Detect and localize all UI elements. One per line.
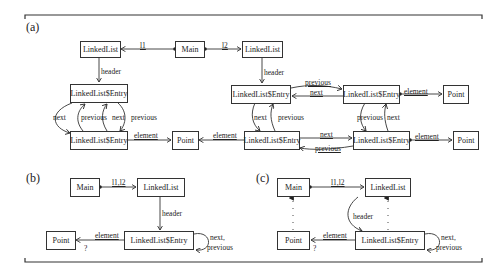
multiplicity-b: ? xyxy=(84,245,87,253)
panel-label-b: (b) xyxy=(26,172,40,184)
node-entry-b4: LinkedList$Entry xyxy=(353,131,410,150)
edge-label-l1l2-b: l1,l2 xyxy=(112,179,126,187)
node-entry-b2: LinkedList$Entry xyxy=(244,131,300,150)
edge-label-element-c: element xyxy=(323,232,347,240)
edge-label-l1l2-c: l1,l2 xyxy=(331,179,345,187)
node-point-b: Point xyxy=(46,231,76,250)
node-entry-a2: LinkedList$Entry xyxy=(70,131,128,150)
self-loop-label-c-2: previous xyxy=(436,244,462,252)
edge-label-previous-2: previous xyxy=(131,114,157,122)
node-linkedlist-l1: LinkedList xyxy=(80,41,121,58)
edge-label-next-3: next xyxy=(310,89,323,97)
node-linkedlist-b: LinkedList xyxy=(137,178,185,197)
self-loop-label-b-1: next, xyxy=(210,234,225,242)
node-point-b1: Point xyxy=(443,85,469,104)
node-point-c: Point xyxy=(277,231,310,250)
node-point-a: Point xyxy=(172,131,199,150)
self-loop-label-c-1: next, xyxy=(441,234,456,242)
multiplicity-c: ? xyxy=(313,245,316,253)
edge-label-previous-5: previous xyxy=(357,114,383,122)
panel-label-a: (a) xyxy=(26,21,39,33)
edge-label-header-1: header xyxy=(101,68,121,76)
node-main-b: Main xyxy=(70,178,100,197)
node-entry-a1: LinkedList$Entry xyxy=(70,84,128,103)
node-entry-c: LinkedList$Entry xyxy=(355,231,425,250)
edge-label-element-4: element xyxy=(415,133,439,141)
edge-label-next-2: next xyxy=(112,114,125,122)
edge-label-next-4: next xyxy=(254,114,267,122)
node-entry-b1: LinkedList$Entry xyxy=(231,85,291,104)
edge-label-next-1: next xyxy=(53,114,66,122)
edge-label-element-1: element xyxy=(134,132,158,140)
edge-label-header-2: header xyxy=(264,69,284,77)
node-entry-b3: LinkedList$Entry xyxy=(343,85,400,104)
edge-label-next-5: next xyxy=(387,114,400,122)
edge-label-next-6: next xyxy=(320,131,333,139)
edge-label-element-3: element xyxy=(404,88,428,96)
self-loop-label-b-2: previous xyxy=(207,244,233,252)
node-linkedlist-c: LinkedList xyxy=(365,178,411,197)
edge-label-header-c: header xyxy=(353,213,373,221)
node-point-b2: Point xyxy=(453,131,479,150)
edge-label-element-b: element xyxy=(95,232,119,240)
edge-label-element-2: element xyxy=(213,132,237,140)
node-entry-b: LinkedList$Entry xyxy=(124,231,194,250)
node-main: Main xyxy=(175,41,205,58)
edge-label-l2: l2 xyxy=(222,42,228,50)
edge-label-header-b: header xyxy=(162,210,182,218)
node-linkedlist-l2: LinkedList xyxy=(242,41,283,58)
panel-label-c: (c) xyxy=(256,172,269,184)
edge-label-previous-1: previous xyxy=(81,114,107,122)
edge-label-previous-3: previous xyxy=(305,79,331,87)
edge-label-previous-6: previous xyxy=(315,145,341,153)
node-main-c: Main xyxy=(277,178,310,197)
edge-label-l1: l1 xyxy=(140,42,146,50)
edge-label-previous-4: previous xyxy=(278,114,304,122)
